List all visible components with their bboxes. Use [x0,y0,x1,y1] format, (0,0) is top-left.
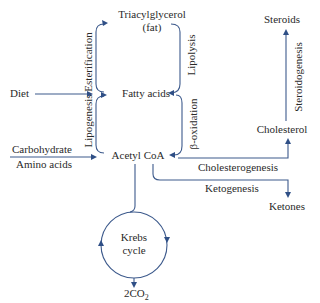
node-carbohydrate: Carbohydrate [12,143,72,155]
arrowhead-icon [285,138,291,144]
process-beta-oxidation: β-oxidation [187,98,199,149]
esterification-arrow [96,24,104,92]
lipolysis-arrow [171,24,180,93]
node-fat: (fat) [143,21,162,34]
process-lipogenesis: Lipogenesis [82,94,94,147]
node-ketones: Ketones [269,200,305,212]
process-esterification: Esterification [82,32,94,92]
process-cholesterogenesis: Cholesterogenesis [198,161,278,173]
arrowhead-icon [102,20,108,26]
arrowhead-icon [283,29,289,35]
arrowhead-icon [101,92,107,98]
arrowhead-icon [91,154,97,160]
node-diet: Diet [10,87,29,99]
node-triacylglycerol: Triacylglycerol [118,8,185,20]
acetyl-to-krebs-line [130,164,135,212]
node-krebs-line2: cycle [122,244,145,256]
arrowhead-icon [98,240,104,246]
beta-oxidation-arrow [174,95,182,155]
arrowhead-icon [164,237,170,243]
node-acetyl-coa: Acetyl CoA [112,149,165,161]
process-lipolysis: Lipolysis [185,35,197,76]
lipogenesis-arrow [96,96,104,153]
process-ketogenesis: Ketogenesis [205,182,259,194]
node-krebs-line1: Krebs [121,231,147,243]
node-amino-acids: Amino acids [16,158,72,170]
node-cholesterol: Cholesterol [257,123,308,135]
process-steroidogenesis: Steroidogenesis [292,42,304,112]
arrowhead-icon [169,152,175,158]
arrowhead-icon [285,192,291,198]
lipid-metabolism-diagram: Triacylglycerol (fat) Fatty acids Acetyl… [0,0,320,303]
node-steroids: Steroids [264,13,300,25]
node-fatty-acids: Fatty acids [122,87,170,99]
node-2co2: 2CO2 [124,287,149,302]
